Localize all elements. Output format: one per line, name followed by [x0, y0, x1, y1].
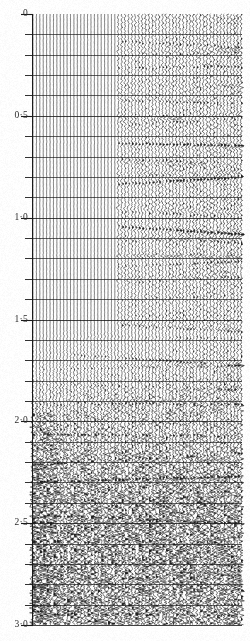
seismic-plot-area: 00·51·01·52·02·53·0 — [0, 0, 250, 641]
time-axis-canvas — [0, 0, 250, 641]
seismic-section-figure: 00·51·01·52·02·53·0 — [0, 0, 250, 641]
